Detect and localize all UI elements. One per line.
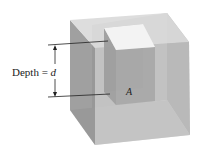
depth-label: Depth = d bbox=[12, 66, 56, 78]
depth-label-text: Depth = bbox=[12, 66, 51, 78]
depth-variable: d bbox=[51, 66, 57, 78]
pressure-depth-diagram bbox=[0, 0, 199, 165]
area-label: A bbox=[126, 86, 132, 97]
arrow-up-icon bbox=[53, 45, 57, 50]
